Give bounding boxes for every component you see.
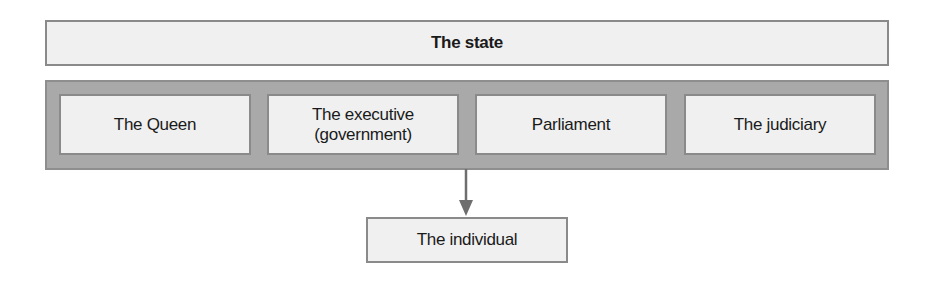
individual-box: The individual bbox=[366, 217, 568, 263]
branch-executive-box: The executive (government) bbox=[267, 94, 459, 155]
branch-label: The executive (government) bbox=[312, 105, 414, 145]
branch-parliament-box: Parliament bbox=[475, 94, 667, 155]
branch-label: Parliament bbox=[532, 115, 610, 135]
branch-label: The judiciary bbox=[734, 115, 826, 135]
arrow-down-icon bbox=[458, 169, 474, 217]
branch-queen-box: The Queen bbox=[59, 94, 251, 155]
state-box: The state bbox=[45, 20, 889, 66]
branch-label: The Queen bbox=[114, 115, 196, 135]
state-label: The state bbox=[431, 33, 503, 53]
branch-judiciary-box: The judiciary bbox=[684, 94, 876, 155]
individual-label: The individual bbox=[417, 230, 518, 250]
